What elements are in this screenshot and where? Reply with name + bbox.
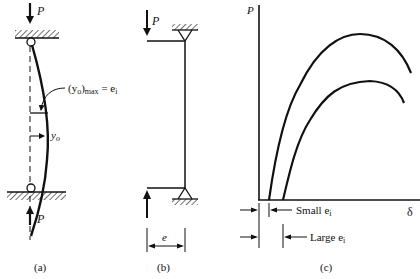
curve-large-ei — [283, 81, 404, 200]
panel-a: P (yo)max = ei yo P (a) — [7, 3, 118, 274]
max-deflection-label: (yo)max = ei — [68, 82, 118, 96]
fixed-support-top-icon — [15, 30, 59, 38]
load-bottom-label: P — [36, 212, 45, 226]
curve-small-ei — [269, 34, 411, 200]
pin-top-icon — [27, 38, 35, 46]
load-arrow-up-icon — [143, 190, 151, 218]
load-arrow-up-icon — [26, 206, 34, 225]
pin-bottom-icon — [27, 184, 35, 192]
large-ei-label: Large ei — [310, 231, 346, 245]
deflected-column — [31, 45, 48, 236]
small-ei-label: Small ei — [296, 204, 332, 218]
pin-support-top-icon — [172, 24, 198, 41]
panel-c: P δ Small ei Large ei (c) — [240, 4, 420, 274]
x-axis-label: δ — [407, 205, 413, 219]
load-arrow-down-icon — [143, 10, 151, 36]
pin-support-bottom-icon — [172, 188, 198, 205]
caption-a: (a) — [34, 261, 47, 274]
large-ei-dimension — [240, 224, 307, 248]
y-axis-label: P — [246, 4, 254, 16]
small-ei-dimension — [240, 203, 292, 248]
caption-c: (c) — [320, 261, 333, 274]
panel-b: P e (b) — [143, 10, 198, 274]
figure-canvas: P (yo)max = ei yo P (a) — [0, 0, 420, 279]
load-top-label: P — [36, 4, 45, 18]
deflection-label: yo — [50, 129, 60, 143]
caption-b: (b) — [157, 261, 170, 274]
eccentricity-label: e — [162, 231, 167, 243]
fixed-support-bottom-icon — [7, 192, 66, 200]
load-arrow-down-icon — [26, 3, 34, 24]
load-top-label: P — [151, 14, 160, 28]
